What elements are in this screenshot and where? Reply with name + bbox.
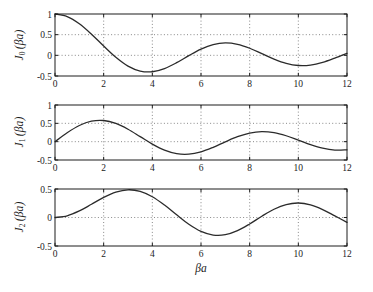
x-tick-label: 8 [247,163,252,173]
tick-labels: 0246810120.50-0.5 [37,185,352,259]
curve-J0(βa) [55,14,347,72]
bessel-figure: 02468101210.50-0.502468101210.50-0.50246… [0,0,373,292]
subplot-J2(βa): 0246810120.50-0.5 [37,185,352,259]
gridlines [55,14,347,76]
x-tick-label: 0 [53,249,58,259]
y-tick-label: -0.5 [37,242,52,252]
x-tick-label: 2 [101,249,106,259]
subplot-J0(βa): 02468101210.50-0.5 [37,10,352,89]
x-tick-label: 2 [101,79,106,89]
x-tick-label: 0 [53,163,58,173]
ylabel-j2-func: J [13,227,25,232]
y-tick-label: 0.5 [40,185,52,195]
ylabel-j2-subscript: 2 [18,223,27,227]
x-tick-label: 2 [101,163,106,173]
y-tick-label: 1 [47,10,52,20]
x-tick-label: 4 [150,79,155,89]
tick-marks [55,14,347,76]
ylabel-j0: J0(βa) [13,29,28,60]
gridlines [55,189,347,246]
x-tick-label: 0 [53,79,58,89]
x-tick-label: 6 [199,163,204,173]
x-tick-label: 10 [294,79,304,89]
ylabel-j0-argument: (βa) [13,29,25,49]
y-tick-label: 0.5 [40,30,52,40]
xlabel-beta-a: βa [195,262,206,274]
ylabel-j1-argument: (βa) [13,116,25,136]
x-tick-label: 10 [294,249,304,259]
x-tick-label: 8 [247,79,252,89]
y-tick-label: 0.5 [40,119,52,129]
ylabel-j2: J2(βa) [13,201,28,232]
x-tick-label: 12 [342,79,352,89]
ylabel-j0-subscript: 0 [18,51,27,55]
x-tick-label: 4 [150,249,155,259]
x-tick-label: 12 [342,163,352,173]
y-tick-label: -0.5 [37,156,52,166]
ylabel-j1: J1(βa) [13,116,28,147]
x-tick-label: 4 [150,163,155,173]
x-tick-label: 6 [199,79,204,89]
y-tick-label: 0 [47,137,52,147]
x-tick-label: 10 [294,163,304,173]
ylabel-j2-argument: (βa) [13,201,25,221]
tick-labels: 02468101210.50-0.5 [37,10,352,89]
ylabel-j0-func: J [13,55,25,60]
x-tick-label: 12 [342,249,352,259]
y-tick-label: 0 [47,51,52,61]
y-tick-label: -0.5 [37,72,52,82]
ylabel-j1-func: J [13,142,25,147]
axes-box [55,14,347,76]
x-tick-label: 8 [247,249,252,259]
ylabel-j1-subscript: 1 [18,138,27,142]
y-tick-label: 1 [47,101,52,111]
y-tick-label: 0 [47,213,52,223]
tick-labels: 02468101210.50-0.5 [37,101,352,173]
bessel-chart-svg: 02468101210.50-0.502468101210.50-0.50246… [0,0,373,292]
subplot-J1(βa): 02468101210.50-0.5 [37,101,352,173]
x-tick-label: 6 [199,249,204,259]
